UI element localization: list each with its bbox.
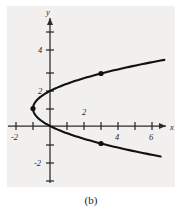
y-tick-label-neg2: -2 bbox=[34, 159, 41, 168]
x-tick-label-4: 4 bbox=[115, 133, 119, 142]
x-tick-label-6: 6 bbox=[149, 133, 153, 142]
data-point-lower bbox=[98, 141, 103, 146]
data-point-vertex bbox=[30, 106, 35, 111]
data-point-upper bbox=[98, 71, 103, 76]
y-axis-arrowhead bbox=[47, 18, 53, 25]
y-tick-label-4: 4 bbox=[38, 46, 42, 55]
x-axis-label: x bbox=[170, 123, 174, 132]
figure-caption: (b) bbox=[0, 194, 182, 206]
y-axis-label: y bbox=[46, 8, 50, 17]
figure-container: -2 2 4 6 4 2 -2 x y (b) bbox=[0, 0, 182, 217]
plot-graphics bbox=[0, 0, 182, 217]
y-tick-label-2: 2 bbox=[38, 87, 42, 96]
x-tick-label-neg2: -2 bbox=[11, 133, 18, 142]
x-axis-arrowhead bbox=[159, 123, 166, 129]
x-tick-label-2: 2 bbox=[82, 108, 86, 117]
